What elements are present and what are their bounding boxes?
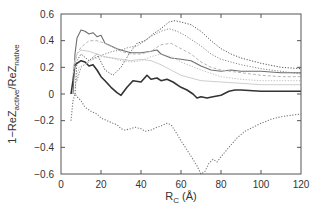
x-tick-label: 120 <box>293 179 310 190</box>
series-dotted-lower <box>71 94 301 174</box>
line-chart: 020406080100120−0.6−0.4−0.200.20.40.6 RC… <box>0 0 317 216</box>
ticks-layer <box>61 14 301 174</box>
y-axis-label-mid: /ReZ <box>6 65 18 89</box>
plot-frame <box>61 14 301 174</box>
y-tick-label: −0.6 <box>34 169 54 180</box>
y-axis-label-sub1: active <box>12 89 21 110</box>
y-tick-label: 0.2 <box>40 62 54 73</box>
x-tick-label: 40 <box>135 179 147 190</box>
y-tick-label: 0 <box>48 89 54 100</box>
y-tick-label: 0.4 <box>40 35 54 46</box>
y-tick-label: 0.6 <box>40 9 54 20</box>
x-axis-label-main: R <box>165 190 173 202</box>
x-tick-label: 0 <box>58 179 64 190</box>
x-tick-label: 60 <box>175 179 187 190</box>
y-axis-label: 1−ReZactive/ReZnative <box>6 44 21 144</box>
y-tick-label: −0.4 <box>34 142 54 153</box>
y-axis-label-sub2: native <box>12 44 21 66</box>
y-tick-label: −0.2 <box>34 115 54 126</box>
x-axis-label-unit: (Å) <box>179 190 197 202</box>
series-dotted-mid-upper <box>77 29 301 81</box>
y-axis-label-prefix: 1−ReZ <box>6 110 18 144</box>
x-tick-label: 20 <box>95 179 107 190</box>
series-dark-solid <box>71 61 301 98</box>
series-layer <box>71 21 301 174</box>
labels-layer: 020406080100120−0.6−0.4−0.200.20.40.6 <box>34 9 310 191</box>
series-light-solid <box>73 50 301 85</box>
x-axis-label: RC (Å) <box>165 190 196 205</box>
x-tick-label: 100 <box>253 179 270 190</box>
series-light-dotted <box>75 54 301 87</box>
x-tick-label: 80 <box>215 179 227 190</box>
